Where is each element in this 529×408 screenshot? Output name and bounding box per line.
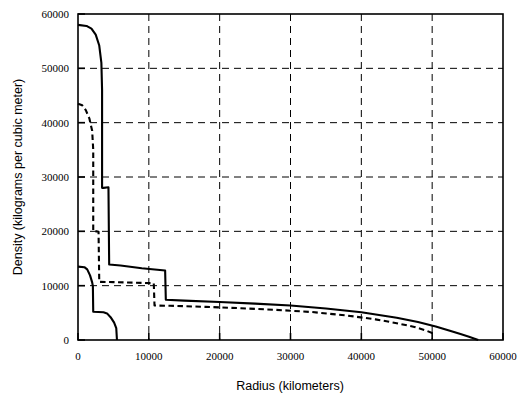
x-tick-labels: 0100002000030000400005000060000 <box>75 350 517 362</box>
y-tick-label: 30000 <box>42 171 70 183</box>
y-tick-label: 10000 <box>42 280 70 292</box>
y-axis-title: Density (kilograms per cubic meter) <box>11 79 25 276</box>
x-axis-title: Radius (kilometers) <box>236 379 344 393</box>
x-tick-label: 50000 <box>418 350 446 362</box>
density-vs-radius-chart: 0100002000030000400005000060000 01000020… <box>0 0 529 408</box>
series-solid-upper <box>78 25 478 340</box>
x-tick-label: 30000 <box>277 350 305 362</box>
x-tick-label: 20000 <box>206 350 234 362</box>
x-axis-ticks <box>78 333 503 340</box>
x-tick-label: 40000 <box>348 350 376 362</box>
y-axis-ticks <box>78 14 85 340</box>
y-tick-label: 50000 <box>42 62 70 74</box>
x-tick-label: 0 <box>75 350 81 362</box>
chart-svg: 0100002000030000400005000060000 01000020… <box>0 0 529 408</box>
y-tick-label: 40000 <box>42 117 70 129</box>
series-solid-lower <box>78 267 117 340</box>
y-tick-label: 0 <box>64 334 70 346</box>
y-tick-labels: 0100002000030000400005000060000 <box>42 8 70 346</box>
x-tick-label: 60000 <box>489 350 517 362</box>
y-tick-label: 60000 <box>42 8 70 20</box>
y-tick-label: 20000 <box>42 225 70 237</box>
x-tick-label: 10000 <box>135 350 163 362</box>
data-series-layer <box>78 25 478 340</box>
series-dashed-middle <box>78 104 436 335</box>
